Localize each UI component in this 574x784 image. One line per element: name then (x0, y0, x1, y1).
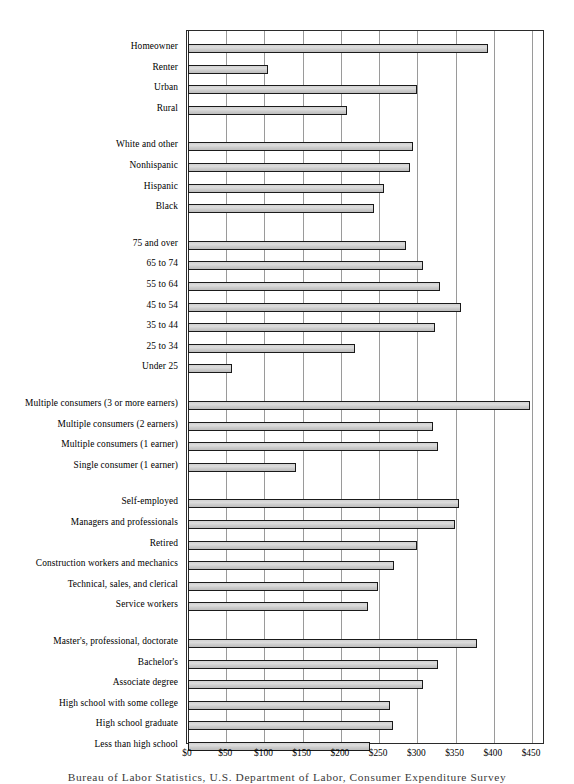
category-axis-labels: HomeownerRenterUrbanRuralWhite and other… (0, 30, 182, 744)
category-label: 35 to 44 (146, 321, 178, 330)
category-label: Multiple consumers (3 or more earners) (25, 399, 178, 408)
value-axis-labels: $0$50$100$150$200$250$300$350$400$450 (0, 747, 574, 763)
table-row (188, 204, 544, 213)
bar (188, 561, 394, 570)
table-row (188, 602, 544, 611)
bar (188, 442, 438, 451)
table-row (188, 541, 544, 550)
table-row (188, 344, 544, 353)
table-row (188, 303, 544, 312)
category-label: Homeowner (131, 42, 178, 51)
table-row (188, 241, 544, 250)
bar (188, 303, 461, 312)
table-row (188, 520, 544, 529)
category-label: High school with some college (59, 699, 178, 708)
bar (188, 261, 423, 270)
bar (188, 364, 232, 373)
category-label: Hispanic (144, 182, 178, 191)
bar (188, 142, 413, 151)
bar (188, 401, 530, 410)
bar (188, 639, 477, 648)
table-row (188, 442, 544, 451)
x-tick-label: $100 (254, 747, 273, 759)
table-row (188, 364, 544, 373)
category-label: Associate degree (113, 678, 178, 687)
plot-area (186, 30, 544, 744)
table-row (188, 701, 544, 710)
category-label: 75 and over (133, 239, 178, 248)
x-tick-label: $400 (483, 747, 502, 759)
bar (188, 541, 417, 550)
category-label: Multiple consumers (1 earner) (61, 440, 178, 449)
bar (188, 184, 384, 193)
table-row (188, 261, 544, 270)
category-label: Construction workers and mechanics (36, 559, 178, 568)
category-label: Retired (150, 539, 178, 548)
table-row (188, 499, 544, 508)
bar (188, 163, 410, 172)
category-label: High school graduate (96, 719, 178, 728)
category-label: 65 to 74 (146, 259, 178, 268)
table-row (188, 106, 544, 115)
bar (188, 106, 347, 115)
table-row (188, 282, 544, 291)
category-label: Single consumer (1 earner) (74, 461, 178, 470)
category-label: Nonhispanic (130, 161, 179, 170)
category-label: Service workers (116, 600, 178, 609)
table-row (188, 721, 544, 730)
bar (188, 422, 433, 431)
x-tick-label: $450 (522, 747, 541, 759)
table-row (188, 463, 544, 472)
bar (188, 463, 296, 472)
bar (188, 44, 488, 53)
bar (188, 721, 393, 730)
category-label: White and other (116, 140, 178, 149)
bar (188, 65, 268, 74)
x-tick-label: $50 (218, 747, 232, 759)
x-tick-label: $350 (445, 747, 464, 759)
x-tick-label: $250 (369, 747, 388, 759)
bar (188, 323, 435, 332)
category-label: Renter (152, 63, 178, 72)
category-label: 25 to 34 (146, 342, 178, 351)
x-tick-label: $200 (331, 747, 350, 759)
table-row (188, 639, 544, 648)
x-tick-label: $150 (292, 747, 311, 759)
category-label: 55 to 64 (146, 280, 178, 289)
table-row (188, 184, 544, 193)
table-row (188, 401, 544, 410)
bar (188, 701, 390, 710)
table-row (188, 85, 544, 94)
bar (188, 520, 455, 529)
bar (188, 85, 417, 94)
table-row (188, 142, 544, 151)
bar (188, 204, 374, 213)
category-label: 45 to 54 (146, 301, 178, 310)
table-row (188, 660, 544, 669)
table-row (188, 582, 544, 591)
category-label: Self-employed (122, 497, 179, 506)
x-tick-label: $300 (407, 747, 426, 759)
bar (188, 680, 423, 689)
category-label: Technical, sales, and clerical (68, 580, 178, 589)
category-label: Master's, professional, doctorate (53, 637, 178, 646)
category-label: Multiple consumers (2 earners) (58, 420, 178, 429)
table-row (188, 44, 544, 53)
category-label: Under 25 (142, 362, 178, 371)
bar-rows (187, 31, 543, 743)
bar (188, 282, 440, 291)
category-label: Bachelor's (138, 658, 178, 667)
table-row (188, 65, 544, 74)
table-row (188, 163, 544, 172)
bar (188, 241, 406, 250)
bar (188, 602, 368, 611)
category-label: Urban (154, 83, 178, 92)
table-row (188, 680, 544, 689)
table-row (188, 422, 544, 431)
table-row (188, 323, 544, 332)
table-row (188, 561, 544, 570)
category-label: Rural (157, 104, 178, 113)
x-tick-label: $0 (182, 747, 191, 759)
bar (188, 499, 459, 508)
